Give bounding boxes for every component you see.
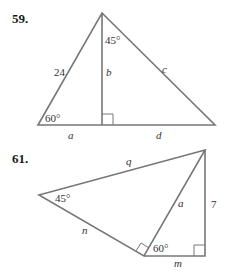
side-label: q xyxy=(126,155,132,167)
side-label: m xyxy=(174,257,182,269)
right-angle-marker xyxy=(102,114,113,125)
angle-label: 60° xyxy=(45,112,60,124)
angle-label: 45° xyxy=(105,34,120,46)
side-label: 7 xyxy=(211,198,217,210)
side-label: d xyxy=(156,129,162,141)
angle-label: 60° xyxy=(153,242,168,254)
problem-61: 61. q 45° n a 7 60° m xyxy=(12,150,217,269)
side-label: c xyxy=(162,63,167,75)
problem-59: 59. 45° 24 b c 60° a d xyxy=(12,11,215,141)
side-label: n xyxy=(82,224,88,236)
right-angle-marker xyxy=(194,245,205,256)
side-label: b xyxy=(106,66,112,78)
side-label: a xyxy=(68,129,74,141)
geometry-figure: 59. 45° 24 b c 60° a d 61. q 45° n a 7 6… xyxy=(0,0,243,276)
angle-label: 45° xyxy=(55,192,70,204)
problem-number: 59. xyxy=(12,11,28,26)
side-label: a xyxy=(178,197,184,209)
side-label: 24 xyxy=(54,66,66,78)
problem-number: 61. xyxy=(12,151,28,166)
